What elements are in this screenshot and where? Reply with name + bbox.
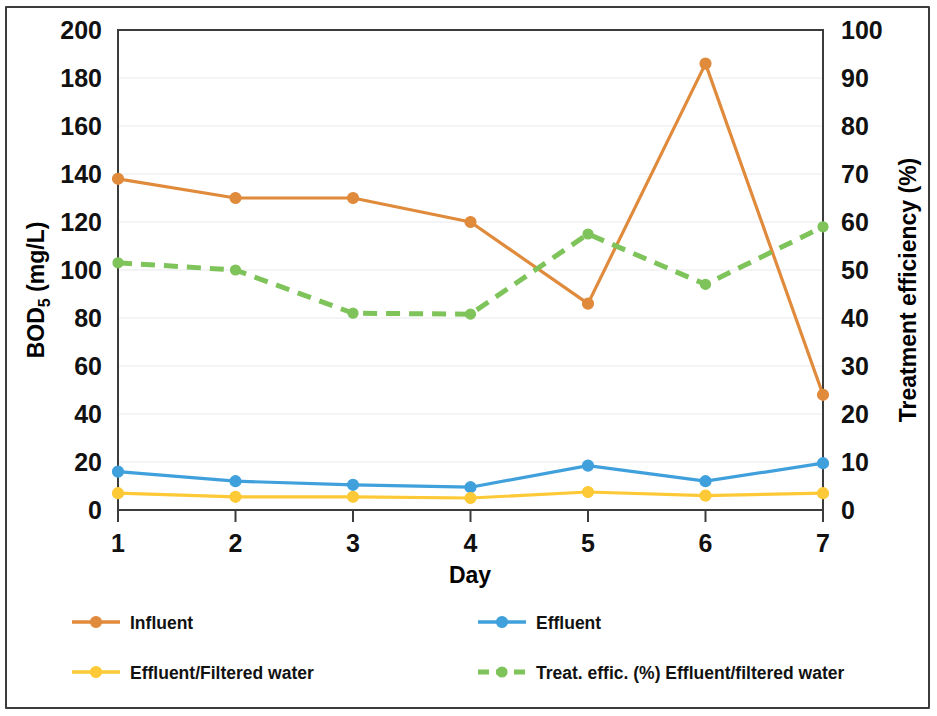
y-axis-title-base: BOD (23, 307, 49, 358)
data-point (818, 389, 829, 400)
y-axis-tick-labels: 020406080100120140160180200 (60, 16, 102, 524)
secondary-y-axis-tick-label: 0 (841, 496, 855, 524)
y-axis-tick-label: 140 (60, 160, 102, 188)
data-point (465, 482, 476, 493)
secondary-y-axis-tick-label: 70 (841, 160, 869, 188)
svg-text:BOD5 (mg/L): BOD5 (mg/L) (23, 222, 53, 359)
secondary-y-axis-tick-label: 20 (841, 400, 869, 428)
data-point (466, 309, 476, 319)
x-axis-tick-label: 3 (346, 529, 360, 557)
legend-item[interactable]: Influent (72, 613, 193, 633)
legend-label: Treat. effic. (%) Effluent/filtered wate… (536, 663, 844, 683)
data-point (818, 488, 829, 499)
secondary-y-axis-tick-label: 10 (841, 448, 869, 476)
legend-marker-icon (91, 617, 102, 628)
legend-marker-icon (91, 667, 102, 678)
data-point (818, 222, 828, 232)
x-axis-tick-label: 6 (699, 529, 713, 557)
data-point (583, 460, 594, 471)
data-point (583, 229, 593, 239)
secondary-y-axis-title: Treatment efficiency (%) (895, 158, 921, 423)
x-axis-tick-labels: 1234567 (111, 529, 830, 557)
secondary-y-axis-tick-label: 90 (841, 64, 869, 92)
y-axis-title: BOD5 (mg/L) (23, 222, 53, 359)
data-point (231, 265, 241, 275)
secondary-y-axis-tick-labels: 0102030405060708090100 (841, 16, 883, 524)
x-axis-tick-label: 4 (464, 529, 478, 557)
y-axis-tick-label: 180 (60, 64, 102, 92)
data-point (348, 479, 359, 490)
y-axis-tick-label: 100 (60, 256, 102, 284)
chart-canvas: 020406080100120140160180200 010203040506… (0, 0, 937, 716)
data-point (348, 193, 359, 204)
figure-container: 020406080100120140160180200 010203040506… (0, 0, 937, 716)
data-point (700, 490, 711, 501)
x-axis-title: Day (449, 562, 491, 588)
y-axis-tick-label: 200 (60, 16, 102, 44)
legend-label: Influent (130, 613, 193, 633)
secondary-y-axis-tick-label: 80 (841, 112, 869, 140)
data-point (230, 193, 241, 204)
data-point (465, 217, 476, 228)
legend-item[interactable]: Effluent/Filtered water (72, 663, 314, 683)
data-point (113, 466, 124, 477)
legend-marker-icon (497, 617, 508, 628)
secondary-y-axis-tick-label: 50 (841, 256, 869, 284)
legend-label: Effluent (536, 613, 601, 633)
y-axis-tick-label: 80 (74, 304, 102, 332)
y-axis-tick-label: 160 (60, 112, 102, 140)
y-axis-tick-label: 0 (88, 496, 102, 524)
y-axis-tick-label: 20 (74, 448, 102, 476)
legend-item[interactable]: Effluent (478, 613, 601, 633)
data-point (818, 458, 829, 469)
chart-legend: InfluentEffluentEffluent/Filtered waterT… (72, 613, 844, 683)
data-point (465, 493, 476, 504)
y-axis-title-unit: (mg/L) (23, 222, 49, 299)
secondary-y-axis-tick-label: 30 (841, 352, 869, 380)
secondary-y-axis-tick-label: 60 (841, 208, 869, 236)
data-point (230, 491, 241, 502)
data-point (348, 491, 359, 502)
y-axis-tick-label: 120 (60, 208, 102, 236)
legend-item[interactable]: Treat. effic. (%) Effluent/filtered wate… (478, 663, 844, 683)
data-point (230, 476, 241, 487)
legend-marker-icon (497, 667, 507, 677)
secondary-y-axis-tick-label: 100 (841, 16, 883, 44)
data-point (583, 298, 594, 309)
y-axis-tick-label: 60 (74, 352, 102, 380)
legend-label: Effluent/Filtered water (130, 663, 314, 683)
y-axis-tick-label: 40 (74, 400, 102, 428)
data-point (348, 308, 358, 318)
data-point (113, 258, 123, 268)
line-chart: 020406080100120140160180200 010203040506… (0, 0, 937, 716)
x-axis-tick-label: 2 (229, 529, 243, 557)
data-point (701, 279, 711, 289)
x-axis-ticks (118, 510, 823, 522)
x-axis-tick-label: 5 (581, 529, 595, 557)
data-point (700, 476, 711, 487)
data-point (700, 58, 711, 69)
secondary-y-axis-tick-label: 40 (841, 304, 869, 332)
x-axis-tick-label: 1 (111, 529, 125, 557)
data-point (113, 488, 124, 499)
data-point (583, 487, 594, 498)
x-axis-tick-label: 7 (816, 529, 830, 557)
y-axis-title-subscript: 5 (36, 298, 53, 307)
data-point (113, 173, 124, 184)
